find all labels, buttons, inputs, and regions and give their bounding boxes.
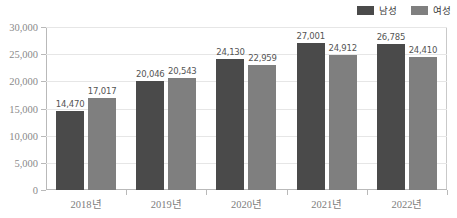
bar-male[interactable]: [216, 59, 244, 190]
bar-wrapper: 20,543: [168, 27, 196, 190]
y-axis-label: 15,000: [9, 103, 38, 114]
y-axis-label: 10,000: [9, 130, 38, 141]
bar-male[interactable]: [56, 111, 84, 190]
legend-label: 여성: [433, 3, 451, 17]
x-axis-tick: [287, 190, 288, 195]
bar-group-2022: 26,78524,4102022년: [367, 27, 447, 190]
x-axis-label: 2022년: [391, 196, 422, 211]
y-axis-label: 5,000: [14, 157, 38, 168]
legend-swatch-female: [411, 6, 428, 15]
bar-wrapper: 24,912: [329, 27, 357, 190]
x-axis-label: 2018년: [71, 196, 102, 211]
bar-wrapper: 14,470: [56, 27, 84, 190]
legend-label: 남성: [379, 3, 397, 17]
bar-male[interactable]: [377, 44, 405, 190]
bar-female[interactable]: [88, 98, 116, 190]
bar-value-label: 26,785: [377, 32, 406, 42]
x-axis-tick: [367, 190, 368, 195]
bar-wrapper: 26,785: [377, 27, 405, 190]
y-axis-label: 20,000: [9, 76, 38, 87]
y-axis-label: 0: [33, 185, 38, 196]
bar-group-2018: 14,47017,0172018년: [46, 27, 126, 190]
y-axis-tick: [41, 190, 46, 191]
bar-value-label: 17,017: [88, 86, 117, 96]
bar-value-label: 20,543: [168, 66, 197, 76]
x-axis-label: 2019년: [151, 196, 182, 211]
bar-value-label: 24,410: [409, 45, 438, 55]
bar-group-2019: 20,04620,5432019년: [126, 27, 206, 190]
legend-item-male[interactable]: 남성: [357, 3, 397, 17]
y-axis-label: 25,000: [9, 49, 38, 60]
bar-group-2020: 24,13022,9592020년: [206, 27, 286, 190]
bar-female[interactable]: [248, 65, 276, 190]
bar-wrapper: 27,001: [297, 27, 325, 190]
bar-value-label: 14,470: [56, 99, 85, 109]
bar-male[interactable]: [297, 43, 325, 190]
grouped-bar-chart: 남성여성 05,00010,00015,00020,00025,00030,00…: [0, 0, 457, 218]
bar-wrapper: 24,130: [216, 27, 244, 190]
x-axis-tick: [206, 190, 207, 195]
bar-value-label: 27,001: [296, 31, 325, 41]
bar-value-label: 24,912: [328, 43, 357, 53]
bar-female[interactable]: [329, 55, 357, 190]
bar-female[interactable]: [409, 57, 437, 190]
plot-area: 05,00010,00015,00020,00025,00030,00014,4…: [46, 27, 447, 190]
bar-group-2021: 27,00124,9122021년: [287, 27, 367, 190]
bar-male[interactable]: [136, 81, 164, 190]
bar-value-label: 24,130: [216, 47, 245, 57]
bar-wrapper: 24,410: [409, 27, 437, 190]
legend-swatch-male: [357, 6, 374, 15]
bar-wrapper: 20,046: [136, 27, 164, 190]
x-axis-label: 2020년: [231, 196, 262, 211]
y-axis-label: 30,000: [9, 22, 38, 33]
bar-value-label: 22,959: [248, 53, 277, 63]
x-axis-tick: [126, 190, 127, 195]
bar-value-label: 20,046: [136, 69, 165, 79]
bar-wrapper: 17,017: [88, 27, 116, 190]
x-axis-tick: [447, 190, 448, 195]
chart-legend: 남성여성: [357, 3, 451, 17]
x-axis-label: 2021년: [311, 196, 342, 211]
legend-item-female[interactable]: 여성: [411, 3, 451, 17]
bar-wrapper: 22,959: [248, 27, 276, 190]
bar-female[interactable]: [168, 78, 196, 190]
